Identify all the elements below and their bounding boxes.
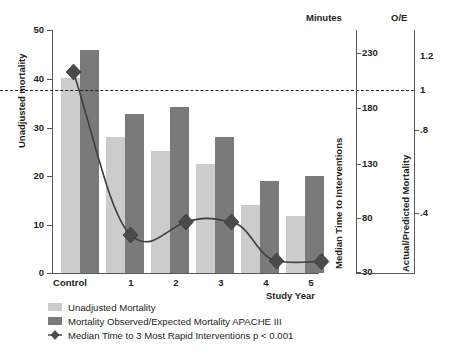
minutes-tick-label-130: 130 [362, 158, 392, 169]
bar-unadjusted-year1 [106, 137, 125, 273]
x-tick-label-year5: 5 [293, 277, 329, 288]
bar-oe-year3 [215, 137, 234, 273]
left-tick-mark-40 [47, 79, 52, 80]
oe-tick-label-0-8: .8 [420, 124, 450, 135]
oe-axis-title: Actual/Predicted Mortality [400, 155, 411, 272]
legend-label-median-time: Median Time to 3 Most Rapid Intervention… [68, 330, 293, 341]
left-axis-title: Unadjusted mortality [16, 54, 27, 149]
bar-unadjusted-year3 [196, 164, 215, 274]
bar-oe-year5 [305, 176, 324, 273]
bar-oe-year1 [125, 114, 144, 273]
minutes-tick-mark-130 [356, 164, 361, 165]
legend-item-median-time: Median Time to 3 Most Rapid Intervention… [48, 328, 293, 342]
chart-figure: Minutes O/E Unadjusted mortality Median … [0, 0, 451, 351]
x-axis-line [52, 273, 319, 274]
reference-line-oe-1 [0, 90, 414, 91]
minutes-tick-mark-180 [356, 108, 361, 109]
bar-oe-control [80, 50, 99, 273]
minutes-tick-label-80: 80 [362, 212, 392, 223]
bar-oe-year2 [170, 107, 189, 273]
minutes-tick-mark-80 [356, 218, 361, 219]
x-tick-label-year3: 3 [203, 277, 239, 288]
left-tick-label-50: 50 [17, 24, 44, 35]
minutes-tick-mark-230 [356, 53, 361, 54]
left-tick-label-10: 10 [17, 219, 44, 230]
x-tick-label-year2: 2 [158, 277, 194, 288]
minutes-tick-label-230: 230 [362, 47, 392, 58]
oe-axis-line [414, 30, 415, 274]
bar-unadjusted-control [61, 78, 80, 273]
minutes-axis-line [356, 30, 357, 274]
oe-axis-header: O/E [391, 12, 407, 23]
oe-tick-label-0-4: .4 [420, 207, 450, 218]
minutes-axis-header: Minutes [306, 12, 342, 23]
bar-unadjusted-year4 [241, 205, 260, 273]
legend-swatch-light-icon [48, 303, 62, 311]
plot-area [53, 30, 319, 273]
legend-item-oe-mortality: Mortality Observed/Expected Mortality AP… [48, 314, 293, 328]
oe-tick-label-1: 1 [420, 84, 450, 95]
legend-item-unadjusted-mortality: Unadjusted Mortality [48, 300, 293, 314]
minutes-tick-label-180: 180 [362, 102, 392, 113]
oe-tick-label-1-2: 1.2 [420, 50, 450, 61]
left-tick-mark-10 [47, 225, 52, 226]
legend-label-oe-mortality: Mortality Observed/Expected Mortality AP… [68, 316, 282, 327]
left-tick-label-0: 0 [17, 267, 44, 278]
x-tick-label-year1: 1 [113, 277, 149, 288]
oe-tick-mark-0-4 [414, 213, 419, 214]
oe-axis-baseline [356, 273, 415, 274]
left-tick-mark-30 [47, 128, 52, 129]
left-tick-mark-50 [47, 30, 52, 31]
chart-legend: Unadjusted Mortality Mortality Observed/… [48, 300, 293, 342]
minutes-axis-title: Median Time to Interventions [333, 138, 344, 269]
left-tick-label-40: 40 [17, 73, 44, 84]
bar-unadjusted-year5 [286, 216, 305, 273]
legend-diamond-line-icon [48, 330, 62, 340]
x-tick-label-control: Control [45, 277, 95, 288]
bar-unadjusted-year2 [151, 151, 170, 273]
legend-swatch-dark-icon [48, 317, 62, 325]
bar-oe-year4 [260, 181, 279, 273]
left-tick-label-20: 20 [17, 170, 44, 181]
minutes-tick-label-30: 30 [362, 266, 392, 277]
left-tick-label-30: 30 [17, 122, 44, 133]
x-tick-label-year4: 4 [248, 277, 284, 288]
legend-label-unadjusted-mortality: Unadjusted Mortality [68, 302, 155, 313]
left-tick-mark-20 [47, 176, 52, 177]
oe-tick-mark-0-8 [414, 130, 419, 131]
